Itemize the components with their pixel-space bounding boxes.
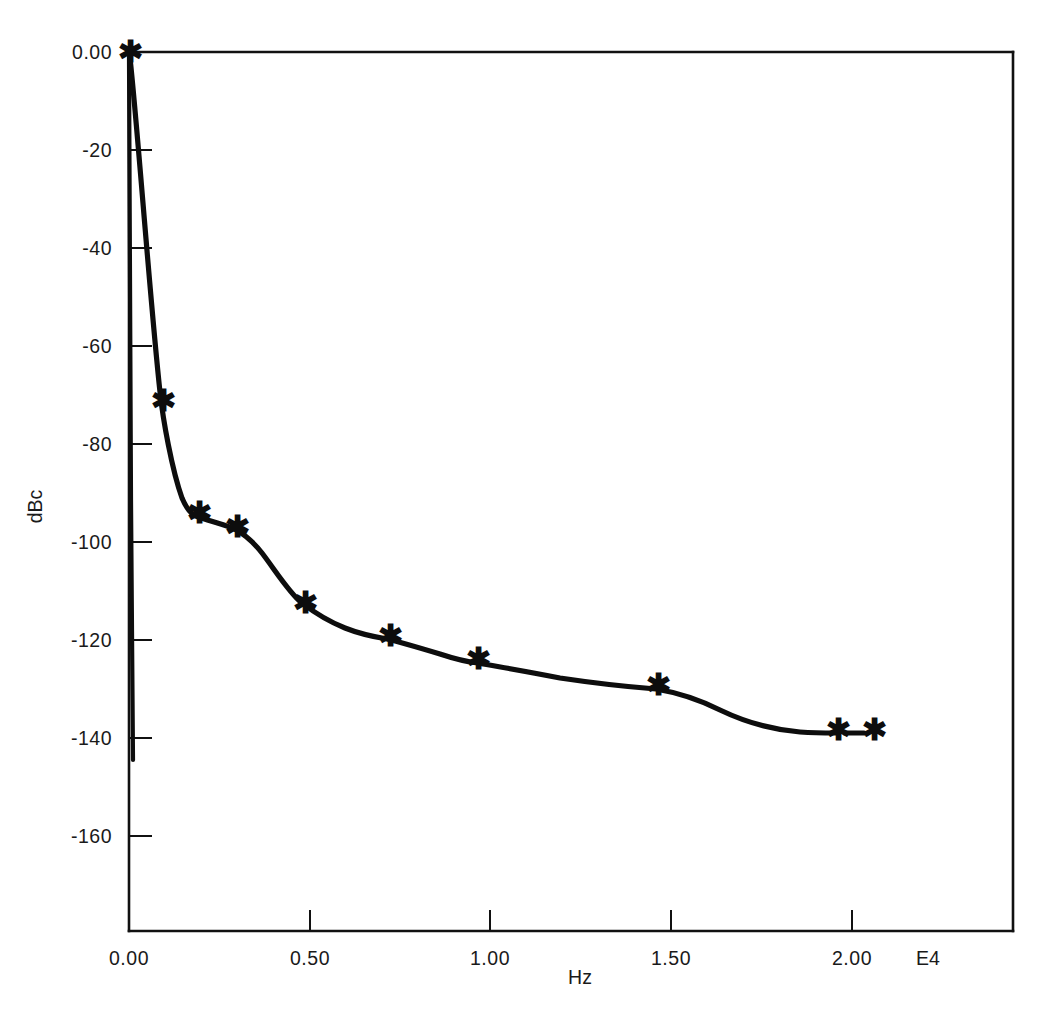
phase-noise-chart: ✱ ✱ ✱ ✱ ✱ ✱ ✱ ✱ ✱ ✱ 0.00 -20 -40 -60 -80…: [0, 0, 1053, 1018]
data-point-marker: ✱: [225, 510, 250, 543]
data-point-marker: ✱: [466, 642, 491, 675]
y-axis-title: dBc: [24, 490, 47, 524]
x-axis-ticks: [310, 910, 852, 931]
x-axis-title: Hz: [568, 966, 592, 989]
y-tick-label-5: -100: [20, 531, 112, 554]
data-point-marker: ✱: [118, 35, 143, 68]
data-point-marker: ✱: [293, 586, 318, 619]
y-tick-label-2: -40: [20, 237, 112, 260]
data-point-markers: ✱ ✱ ✱ ✱ ✱ ✱ ✱ ✱ ✱ ✱: [118, 35, 887, 746]
x-tick-label-0: 0.00: [109, 947, 149, 970]
y-tick-label-1: -20: [20, 139, 112, 162]
data-series-line: [130, 58, 835, 733]
data-point-marker: ✱: [826, 713, 851, 746]
data-point-marker: ✱: [646, 668, 671, 701]
y-tick-label-7: -140: [20, 727, 112, 750]
y-tick-label-0: 0.00: [20, 41, 112, 64]
y-tick-label-6: -120: [20, 629, 112, 652]
data-point-marker: ✱: [151, 384, 176, 417]
x-tick-label-3: 1.50: [651, 947, 691, 970]
plot-area: ✱ ✱ ✱ ✱ ✱ ✱ ✱ ✱ ✱ ✱: [0, 0, 1053, 1018]
y-tick-label-4: -80: [20, 433, 112, 456]
x-tick-label-1: 0.50: [290, 947, 330, 970]
data-point-marker: ✱: [378, 619, 403, 652]
data-point-marker: ✱: [187, 496, 212, 529]
y-tick-label-8: -160: [20, 825, 112, 848]
data-point-marker: ✱: [862, 713, 887, 746]
x-tick-label-2: 1.00: [470, 947, 510, 970]
x-tick-label-4: 2.00: [832, 947, 872, 970]
y-tick-label-3: -60: [20, 335, 112, 358]
x-axis-exponent-label: E4: [916, 947, 940, 970]
